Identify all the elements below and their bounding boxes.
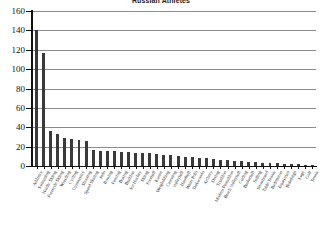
x-axis-tick	[235, 166, 236, 169]
bar	[162, 155, 165, 166]
bar	[191, 157, 194, 166]
y-axis-tick	[26, 69, 32, 70]
x-axis-tick	[256, 166, 257, 169]
y-axis-tick	[26, 166, 32, 167]
x-axis-tick	[107, 166, 108, 169]
y-axis-tick-label: 80	[0, 85, 25, 94]
x-axis-tick	[51, 166, 52, 169]
x-axis-tick	[206, 166, 207, 169]
y-axis-tick	[26, 147, 32, 148]
x-axis-tick	[220, 166, 221, 169]
y-axis-tick	[26, 11, 32, 12]
bar	[113, 151, 116, 166]
x-axis-tick	[129, 166, 130, 169]
x-axis-tick	[44, 166, 45, 169]
x-axis-tick	[312, 166, 313, 169]
y-axis-tick-label: 100	[0, 65, 25, 74]
x-axis-tick	[277, 166, 278, 169]
bar	[63, 138, 66, 166]
y-axis-tick	[26, 89, 32, 90]
x-axis-tick	[298, 166, 299, 169]
x-axis-tick	[121, 166, 122, 169]
y-axis-tick-label: 60	[0, 104, 25, 113]
bar	[169, 155, 172, 166]
bar	[70, 139, 73, 166]
bar	[56, 134, 59, 166]
y-axis-tick-label: 160	[0, 7, 25, 16]
y-axis-tick-label: 140	[0, 26, 25, 35]
x-axis-tick	[291, 166, 292, 169]
bar	[99, 151, 102, 167]
x-axis-tick	[93, 166, 94, 169]
bar	[42, 53, 45, 166]
bar	[85, 141, 88, 166]
plot-area	[33, 11, 316, 166]
x-axis-tick	[242, 166, 243, 169]
y-axis-tick-label: 20	[0, 143, 25, 152]
chart-container: Russian Athletes 020406080100120140160 A…	[0, 0, 322, 225]
bar	[120, 152, 123, 166]
x-axis-tick	[114, 166, 115, 169]
bar	[106, 151, 109, 167]
y-axis-tick	[26, 30, 32, 31]
bar	[177, 156, 180, 166]
x-axis-tick	[305, 166, 306, 169]
x-axis-tick	[213, 166, 214, 169]
bar	[92, 150, 95, 166]
x-axis-tick	[150, 166, 151, 169]
y-axis-tick-label: 40	[0, 123, 25, 132]
x-axis-tick	[164, 166, 165, 169]
x-axis-tick	[72, 166, 73, 169]
x-axis-tick	[86, 166, 87, 169]
bar	[184, 157, 187, 166]
x-axis-tick	[270, 166, 271, 169]
x-axis-tick	[171, 166, 172, 169]
bar	[212, 159, 215, 166]
bar	[134, 153, 137, 166]
bar	[49, 131, 52, 166]
x-axis-tick	[58, 166, 59, 169]
x-axis-tick	[199, 166, 200, 169]
bar	[198, 158, 201, 166]
x-axis-tick	[100, 166, 101, 169]
x-axis-tick	[228, 166, 229, 169]
x-axis-labels: AthleticsSwimmingNordic SkiingFreestyle …	[0, 170, 322, 225]
chart-title: Russian Athletes	[0, 0, 322, 5]
bar	[141, 153, 144, 166]
x-axis-line	[31, 166, 317, 167]
x-axis-tick	[157, 166, 158, 169]
x-axis-tick	[263, 166, 264, 169]
bar	[205, 158, 208, 166]
y-axis-tick	[26, 127, 32, 128]
x-axis-tick	[249, 166, 250, 169]
x-axis-tick	[192, 166, 193, 169]
y-axis-tick	[26, 108, 32, 109]
x-axis-tick	[143, 166, 144, 169]
x-axis-tick	[284, 166, 285, 169]
bar	[35, 30, 38, 166]
x-axis-tick	[37, 166, 38, 169]
x-axis-tick	[65, 166, 66, 169]
bar	[148, 153, 151, 166]
x-axis-tick	[79, 166, 80, 169]
bar	[155, 154, 158, 166]
x-axis-tick	[136, 166, 137, 169]
bar	[127, 152, 130, 166]
x-axis-tick	[178, 166, 179, 169]
y-axis-tick-label: 120	[0, 46, 25, 55]
y-axis-tick	[26, 50, 32, 51]
x-axis-tick	[185, 166, 186, 169]
bar	[78, 140, 81, 166]
bar-series	[33, 11, 316, 166]
